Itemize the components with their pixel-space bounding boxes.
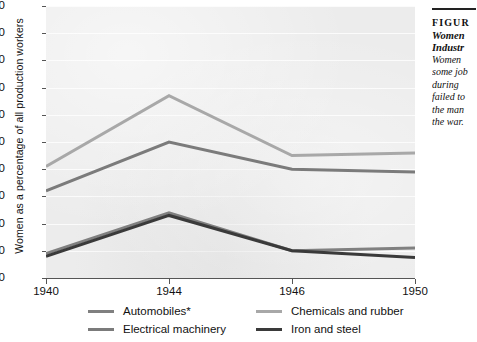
caption-title-line: Industr — [432, 42, 477, 54]
legend-swatch-icon — [256, 328, 282, 331]
legend-item[interactable]: Chemicals and rubber — [256, 306, 404, 318]
caption-body: Womensome jobduring failed tothe manthe … — [432, 54, 477, 128]
y-tick-label: 40 — [0, 163, 5, 175]
chart-legend: Automobiles*Chemicals and rubberElectric… — [88, 306, 418, 340]
y-tick-label: 60 — [0, 109, 5, 121]
legend-swatch-icon — [88, 328, 114, 331]
y-tick-label: 100 — [0, 0, 5, 12]
caption-body-line: the man — [432, 104, 477, 116]
figure-container: Women as a percentage of all production … — [0, 0, 477, 342]
series-line — [46, 215, 415, 257]
legend-label: Electrical machinery — [123, 324, 226, 336]
x-tick-mark — [292, 279, 293, 284]
legend-label: Chemicals and rubber — [291, 306, 404, 318]
legend-item[interactable]: Iron and steel — [256, 324, 361, 336]
x-axis-line — [46, 278, 415, 279]
y-tick-label: 0 — [0, 272, 5, 284]
caption-rule — [432, 8, 476, 10]
caption-body-line: some job — [432, 66, 477, 78]
caption-body-line: during — [432, 79, 477, 91]
x-tick-mark — [169, 279, 170, 284]
figure-caption: FIGUR WomenIndustr Womensome jobduring f… — [432, 8, 477, 138]
chart-panel: Women as a percentage of all production … — [0, 0, 424, 342]
series-lines — [46, 6, 415, 278]
x-tick-mark — [415, 279, 416, 284]
x-tick-label: 1950 — [392, 286, 438, 298]
caption-body-line: failed to — [432, 91, 477, 103]
y-tick-label: 20 — [0, 218, 5, 230]
legend-swatch-icon — [88, 310, 114, 313]
legend-item[interactable]: Electrical machinery — [88, 324, 226, 336]
legend-item[interactable]: Automobiles* — [88, 306, 191, 318]
y-tick-label: 30 — [0, 190, 5, 202]
legend-label: Automobiles* — [123, 306, 191, 318]
y-tick-label: 90 — [0, 27, 5, 39]
y-tick-label: 70 — [0, 82, 5, 94]
y-tick-label: 50 — [0, 136, 5, 148]
x-tick-label: 1944 — [146, 286, 192, 298]
x-tick-label: 1940 — [23, 286, 69, 298]
y-tick-label: 80 — [0, 54, 5, 66]
caption-title: WomenIndustr — [432, 30, 477, 54]
y-tick-label: 10 — [0, 245, 5, 257]
caption-body-line: Women — [432, 54, 477, 66]
legend-label: Iron and steel — [291, 324, 361, 336]
caption-body-line: the war. — [432, 116, 477, 128]
x-tick-label: 1946 — [269, 286, 315, 298]
y-axis-title: Women as a percentage of all production … — [13, 11, 25, 261]
legend-swatch-icon — [256, 310, 282, 313]
caption-title-line: Women — [432, 30, 477, 42]
caption-figure-label: FIGUR — [432, 17, 477, 28]
series-line — [46, 142, 415, 191]
x-tick-mark — [46, 279, 47, 284]
